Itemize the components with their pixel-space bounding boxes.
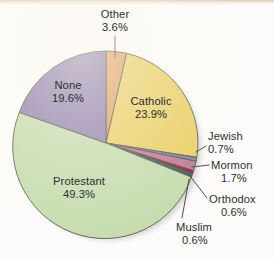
slice-label-catholic: Catholic 23.9% xyxy=(120,95,182,120)
slice-label-other: Other 3.6% xyxy=(86,8,144,33)
slice-label-orthodox-value: 0.6% xyxy=(209,206,256,219)
slice-label-protestant-value: 49.3% xyxy=(36,188,122,201)
slice-label-muslim: Muslim 0.6% xyxy=(176,221,212,246)
pie-chart-figure: Other 3.6% None 19.6% Catholic 23.9% Pro… xyxy=(0,0,274,261)
slice-label-catholic-name: Catholic xyxy=(130,95,171,107)
slice-label-orthodox: Orthodox 0.6% xyxy=(209,193,256,218)
slice-label-mormon-value: 1.7% xyxy=(211,172,253,185)
slice-label-muslim-value: 0.6% xyxy=(176,234,212,247)
slice-label-orthodox-name: Orthodox xyxy=(209,193,256,205)
slice-label-mormon: Mormon 1.7% xyxy=(211,159,253,184)
leader-line-orthodox xyxy=(190,176,207,198)
slice-label-none-value: 19.6% xyxy=(40,92,96,105)
slice-label-jewish: Jewish 0.7% xyxy=(208,130,243,155)
slice-label-protestant-name: Protestant xyxy=(53,175,105,187)
slice-label-other-value: 3.6% xyxy=(86,21,144,34)
slice-label-jewish-value: 0.7% xyxy=(208,143,243,156)
slice-label-jewish-name: Jewish xyxy=(208,130,243,142)
slice-label-none-name: None xyxy=(54,79,81,91)
slice-label-mormon-name: Mormon xyxy=(211,159,253,171)
slice-label-catholic-value: 23.9% xyxy=(120,108,182,121)
slice-label-other-name: Other xyxy=(101,8,129,20)
slice-label-protestant: Protestant 49.3% xyxy=(36,175,122,200)
slice-label-muslim-name: Muslim xyxy=(176,221,212,233)
slice-label-none: None 19.6% xyxy=(40,79,96,104)
